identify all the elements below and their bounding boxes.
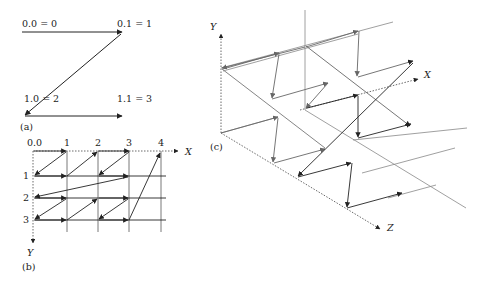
x-axis-label-3d: X [423, 69, 432, 80]
panel-c: Y X Z (c) [210, 10, 467, 233]
x-axis-label: X [184, 146, 193, 157]
arrow-1-to-2 [25, 34, 121, 115]
z-axis-3d [221, 133, 380, 229]
back-plane-arrows [221, 31, 413, 163]
label-11: 1.1 = 3 [117, 93, 152, 104]
y-axis-label-3d: Y [210, 21, 218, 32]
caption-b: (b) [22, 261, 36, 272]
panel-b: 0.0 1 2 3 4 X 1 2 3 Y [22, 137, 193, 272]
label-10: 1.0 = 2 [24, 93, 59, 104]
caption-a: (a) [20, 121, 33, 132]
origin-label: 0.0 [27, 137, 42, 148]
row-label-1: 1 [23, 170, 29, 181]
scan-arrows [34, 151, 160, 220]
col-label-3: 3 [126, 137, 132, 148]
label-01: 0.1 = 1 [117, 18, 152, 29]
structure-lines [221, 10, 467, 208]
y-axis-label: Y [27, 247, 35, 258]
panel-a: 0.0 = 0 0.1 = 1 1.0 = 2 1.1 = 3 (a) [20, 18, 152, 132]
col-label-4: 4 [158, 137, 164, 148]
col-label-1: 1 [64, 137, 70, 148]
col-label-2: 2 [95, 137, 101, 148]
label-00: 0.0 = 0 [22, 18, 57, 29]
row-label-2: 2 [23, 192, 29, 203]
row-label-3: 3 [23, 214, 29, 225]
caption-c: (c) [210, 141, 223, 152]
z-axis-label-3d: Z [386, 222, 394, 233]
figure-canvas: 0.0 = 0 0.1 = 1 1.0 = 2 1.1 = 3 (a) 0.0 … [0, 0, 486, 283]
